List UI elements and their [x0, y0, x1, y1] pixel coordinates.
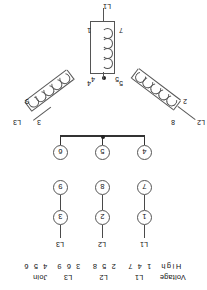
lead-line-l2 — [102, 225, 103, 238]
column-header-l3: L3 — [50, 273, 85, 282]
terminal-3[interactable]: 3 — [53, 210, 68, 225]
label-coil-bottom-5: 5 — [115, 76, 119, 83]
label-coil-right-3: 3 — [37, 119, 41, 126]
label-coil-left-5: 5 — [119, 80, 123, 87]
lead-l2 — [177, 106, 195, 120]
label-coil-bottom-4: 4 — [91, 76, 95, 83]
terminal-6[interactable]: 6 — [53, 145, 68, 160]
table-header-row: Voltage L1 L2 L3 Join — [4, 273, 203, 282]
connection-table: Voltage L1 L2 L3 Join High 1 4 7 2 5 8 3… — [4, 262, 203, 282]
column-header-voltage: Voltage — [157, 273, 203, 282]
join-node-dot — [101, 135, 105, 139]
cell-join: 4 5 6 — [4, 262, 50, 271]
column-header-join: Join — [4, 273, 50, 282]
terminal-column-label-l2: L2 — [91, 240, 113, 249]
terminal-column-label-l1: L1 — [133, 240, 155, 249]
column-header-l1: L1 — [121, 273, 156, 282]
terminal-7[interactable]: 7 — [137, 180, 152, 195]
terminal-9[interactable]: 9 — [53, 180, 68, 195]
connector-3-9 — [60, 195, 61, 210]
column-header-l2: L2 — [86, 273, 121, 282]
label-l1: L1 — [103, 3, 111, 10]
terminal-5[interactable]: 5 — [95, 145, 110, 160]
terminal-8[interactable]: 8 — [95, 180, 110, 195]
label-coil-bottom-7: 7 — [119, 27, 123, 34]
diagram-canvas: Voltage L1 L2 L3 Join High 1 4 7 2 5 8 3… — [0, 0, 207, 290]
cell-l3: 3 6 9 — [50, 262, 85, 271]
terminal-2[interactable]: 2 — [95, 210, 110, 225]
join-stub-6 — [60, 136, 61, 145]
join-stub-4 — [144, 136, 145, 145]
neutral-drop-lead — [103, 72, 104, 80]
table-row: High 1 4 7 2 5 8 3 6 9 4 5 6 — [4, 262, 203, 271]
terminal-column-label-l3: L3 — [49, 240, 71, 249]
wye-winding-schematic: L2 8 2 5 L3 3 — [0, 0, 207, 122]
cell-voltage: High — [157, 262, 203, 271]
label-coil-right-9: 9 — [25, 98, 29, 105]
label-l3: L3 — [13, 119, 21, 126]
lead-line-l3 — [60, 225, 61, 238]
lead-line-l1 — [144, 225, 145, 238]
label-coil-bottom-1: 1 — [87, 27, 91, 34]
label-coil-left-8: 8 — [171, 119, 175, 126]
label-coil-left-2: 2 — [183, 98, 187, 105]
connector-2-8 — [102, 195, 103, 210]
cell-l1: 1 4 7 — [121, 262, 156, 271]
lead-l1 — [103, 8, 104, 22]
cell-l2: 2 5 8 — [86, 262, 121, 271]
connector-1-7 — [144, 195, 145, 210]
terminal-4[interactable]: 4 — [137, 145, 152, 160]
label-l2: L2 — [197, 119, 205, 126]
terminal-1[interactable]: 1 — [137, 210, 152, 225]
